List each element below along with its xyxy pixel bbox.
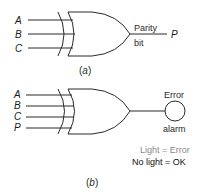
- xor-gate-a-body: [68, 12, 130, 56]
- alarm-label-alarm: alarm: [163, 124, 186, 134]
- error-alarm-lamp-icon: [165, 101, 185, 121]
- input-label-b: B: [15, 29, 22, 40]
- output-label-bit: bit: [134, 38, 144, 48]
- caption-a: (a): [79, 65, 91, 76]
- input-label-a: A: [13, 89, 21, 100]
- parity-circuit-diagram: A B C Parity bit P (a) A B C P: [0, 0, 215, 193]
- output-label-parity: Parity: [134, 23, 158, 33]
- input-label-c: C: [14, 111, 22, 122]
- legend-nolight-ok: No light = OK: [132, 157, 186, 167]
- caption-b: (b): [86, 177, 98, 188]
- alarm-label-error: Error: [164, 90, 184, 100]
- caption-a-close: ): [88, 65, 91, 76]
- xor-gate-b-body: [68, 89, 130, 134]
- caption-b-close: ): [95, 177, 98, 188]
- figure-a-parity-generator: A B C Parity bit P (a): [14, 12, 178, 76]
- input-label-a: A: [14, 15, 22, 26]
- xor-gate-b-back-arc: [58, 89, 65, 134]
- output-label-p: P: [171, 29, 178, 40]
- input-label-b: B: [14, 100, 21, 111]
- input-label-p: P: [14, 122, 21, 133]
- figure-b-parity-checker: A B C P Error alarm Light = Error No lig…: [13, 89, 190, 188]
- input-label-c: C: [15, 43, 23, 54]
- legend-light-error: Light = Error: [140, 145, 190, 155]
